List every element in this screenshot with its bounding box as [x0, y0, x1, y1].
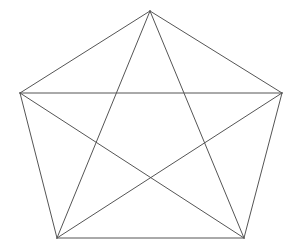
figure-background: [0, 0, 298, 252]
pentagram-figure: [0, 0, 298, 252]
pentagram-canvas: [0, 0, 298, 252]
